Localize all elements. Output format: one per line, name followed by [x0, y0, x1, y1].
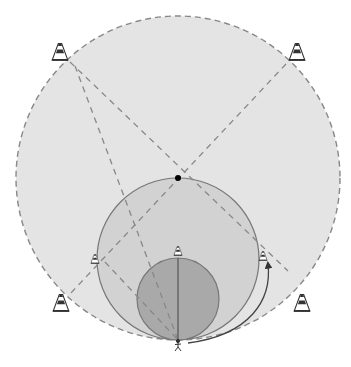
drill-diagram	[0, 0, 351, 367]
center-dot	[175, 175, 181, 181]
cone-bottom-right-icon	[294, 295, 311, 312]
player-icon	[175, 339, 181, 351]
cone-top-left-icon	[52, 44, 69, 61]
field-canvas	[0, 0, 351, 367]
cone-bottom-left-icon	[53, 295, 70, 312]
cone-top-right-icon	[289, 44, 306, 61]
